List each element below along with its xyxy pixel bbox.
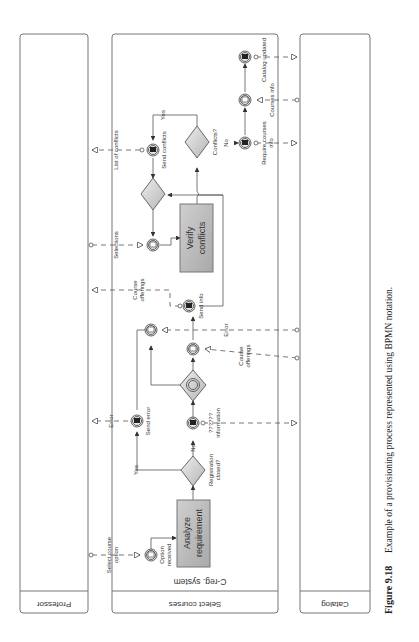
figure-number: Figure 9.18 [383, 566, 394, 614]
envelope-icon [150, 147, 156, 152]
pool-professor: Professor [20, 34, 88, 613]
envelope-icon [190, 346, 196, 351]
label-registration-closed-2: closed? [215, 459, 221, 480]
envelope-icon [150, 242, 156, 247]
label-yes-1: Yes [133, 465, 139, 475]
svg-text:conflicts: conflicts [197, 221, 207, 254]
task-verify-conflicts[interactable]: Verify conflicts [180, 204, 213, 272]
label-registration-closed-1: Registration [208, 454, 214, 486]
envelope-icon [186, 303, 192, 308]
envelope-icon [148, 552, 154, 557]
envelope-icon [242, 97, 248, 102]
bpmn-diagram: Professor Select courses C-reg. system C… [0, 0, 419, 642]
figure-caption-text: Example of a provisioning process repres… [384, 287, 394, 553]
label-select-course-option-2: option [113, 547, 119, 563]
task-analyze-requirement[interactable]: Analyze requirement [177, 500, 210, 567]
lane-label-creg-system: C-reg. system [174, 577, 227, 587]
label-information-1: ?????? [208, 412, 214, 433]
svg-text:Verify: Verify [185, 226, 195, 249]
label-list-of-conflicts: List of conflicts [113, 130, 119, 169]
label-conflicts: Conflicts? [212, 128, 218, 155]
figure-caption: Figure 9.18 Example of a provisioning pr… [383, 287, 394, 614]
label-course-offerings-catalog-1: Course [238, 346, 244, 366]
label-no-2: No [223, 139, 229, 147]
label-course-offerings-catalog-2: offerings [245, 345, 251, 368]
envelope-icon [148, 327, 154, 332]
label-course-offerings-prof-2: offerings [139, 279, 145, 302]
svg-text:Analyze: Analyze [182, 517, 192, 549]
pool-label-select-courses: Select courses [169, 600, 221, 609]
label-information-2: information [215, 408, 221, 438]
label-require-courses-1: Require courses [261, 121, 267, 165]
envelope-icon [242, 54, 248, 59]
label-send-error: Send error [145, 407, 151, 435]
label-no-1: No [190, 444, 196, 452]
pool-label-professor: Professor [37, 600, 72, 609]
pool-label-catalog: Catalog [321, 600, 349, 609]
envelope-icon [190, 420, 196, 425]
label-courses-info: Courses info [269, 82, 275, 116]
label-selections: Selections [113, 231, 119, 259]
envelope-icon [242, 140, 248, 145]
label-require-courses-2: info [268, 138, 274, 148]
label-send-conflicts: Send conflicts [161, 131, 167, 168]
label-select-course-option-1: Select course [106, 536, 112, 573]
label-error-from-catalog: Error [223, 323, 229, 336]
svg-text:requirement: requirement [194, 508, 204, 557]
label-course-offerings-prof-1: Course [132, 280, 138, 300]
label-yes-2: Yes [160, 110, 166, 120]
label-option-received-1: Option [159, 546, 165, 564]
label-catalog-updated: Catalog updated [261, 38, 267, 82]
pool-catalog: Catalog [300, 34, 370, 613]
envelope-icon [134, 418, 140, 423]
label-error-to-professor: Error [108, 414, 114, 427]
label-option-received-2: received [166, 544, 172, 567]
label-send-info: Send info [198, 293, 204, 319]
